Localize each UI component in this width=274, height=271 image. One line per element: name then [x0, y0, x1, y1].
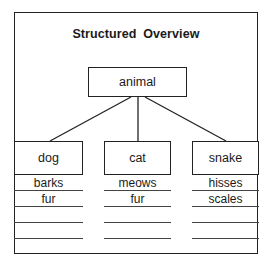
node-animal-label: animal: [119, 75, 156, 89]
node-cat: cat: [104, 141, 171, 175]
attribute-slot: [14, 207, 83, 223]
node-snake-label: snake: [209, 151, 242, 165]
attribute-slot: hisses: [192, 175, 259, 191]
cat-attribute-list: meows fur: [104, 175, 171, 239]
node-cat-label: cat: [129, 151, 146, 165]
attribute-slot: scales: [192, 191, 259, 207]
attribute-slot: fur: [104, 191, 171, 207]
diagram-title: Structured Overview: [14, 27, 258, 41]
node-dog-label: dog: [38, 151, 59, 165]
attribute-slot: [104, 207, 171, 223]
node-snake: snake: [192, 141, 259, 175]
snake-attribute-list: hisses scales: [192, 175, 259, 239]
attribute-slot: [104, 223, 171, 239]
node-dog: dog: [14, 141, 83, 175]
attribute-slot: fur: [14, 191, 83, 207]
attribute-slot: meows: [104, 175, 171, 191]
attribute-slot: [14, 223, 83, 239]
attribute-slot: [192, 223, 259, 239]
node-animal: animal: [88, 67, 187, 97]
attribute-slot: barks: [14, 175, 83, 191]
attribute-slot: [192, 207, 259, 223]
dog-attribute-list: barks fur: [14, 175, 83, 239]
